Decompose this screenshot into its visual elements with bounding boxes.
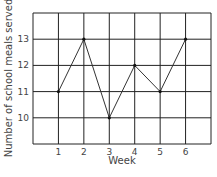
data-points [57,38,187,120]
y-tick-label: 12 [18,60,29,70]
line-chart: 123456 10111213 Week Number of school me… [0,0,217,177]
y-axis-label: Number of school meals served [3,0,14,157]
y-tick-label: 13 [18,34,29,44]
chart-grid [33,13,211,144]
y-tick-label: 10 [18,113,30,123]
x-tick-label: 2 [81,147,87,157]
data-series-line [58,39,185,118]
data-point [82,38,85,41]
y-tick-label: 11 [18,87,29,97]
x-tick-label: 5 [157,147,163,157]
y-axis-ticks: 10111213 [18,34,30,123]
data-point [133,64,136,67]
data-point [184,38,187,41]
x-axis-label: Week [108,155,136,166]
data-point [108,116,111,119]
data-point [57,90,60,93]
x-tick-label: 1 [56,147,62,157]
x-tick-label: 6 [183,147,189,157]
data-point [159,90,162,93]
